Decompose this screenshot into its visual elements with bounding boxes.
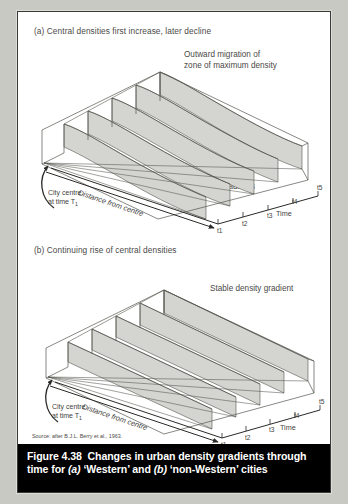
- figure-caption-bar: Figure 4.38 Changes in urban density gra…: [18, 444, 330, 492]
- panel-b-tick-label-t2: t2: [245, 434, 251, 441]
- panel-b-city-centre-sub: 1: [79, 415, 82, 421]
- panel-b-tick-label-t4: t4: [294, 412, 300, 419]
- panel-a-block: [42, 72, 318, 228]
- panel-a-city-centre-line2: at time T1: [48, 197, 81, 209]
- panel-a-tick-label-t3: t3: [267, 212, 273, 219]
- panel-b-right-lower: [308, 381, 314, 393]
- panel-a-city-centre-label: City centre at time T1: [48, 188, 81, 209]
- panel-a-tick-label-t2: t2: [242, 220, 248, 227]
- figure-panel: (a) Central densities first increase, la…: [17, 11, 331, 493]
- page-background: (a) Central densities first increase, la…: [0, 0, 348, 504]
- panel-b-city-centre-line2: at time T1: [52, 411, 85, 423]
- caption-label-a: (a): [68, 463, 81, 475]
- panel-b-left-base: [46, 367, 68, 378]
- panel-b-block: [46, 290, 320, 442]
- figure-caption: Figure 4.38 Changes in urban density gra…: [27, 450, 321, 475]
- panel-a-tick-label-t4: t4: [292, 198, 298, 205]
- panel-a-right-lower: [302, 169, 308, 180]
- panel-b-time-axis-label: Time: [280, 423, 296, 432]
- figure-number: Figure 4.38: [27, 450, 82, 462]
- panel-a-right-upper: [302, 143, 308, 146]
- panel-a-city-centre-line2-text: at time T: [48, 198, 75, 205]
- panel-a-left-base: [42, 153, 64, 164]
- panel-b-tick-label-t5: t5: [319, 398, 325, 405]
- panel-b-tick-label-t3: t3: [269, 426, 275, 433]
- panel-b-time-ticks: [222, 405, 320, 438]
- diagram-area: (a) Central densities first increase, la…: [18, 12, 330, 450]
- caption-label-b: (b): [154, 463, 167, 475]
- density-gradient-diagram: [18, 12, 330, 450]
- panel-a-time-axis-label: Time: [276, 209, 292, 218]
- caption-mid1: ‘Western’ and: [81, 463, 154, 475]
- panel-a-tick-label-t5: t5: [317, 184, 323, 191]
- panel-a-time-ticks: [218, 191, 318, 224]
- source-note: Source: after B.J.L. Berry et al., 1963.: [32, 433, 122, 439]
- panel-a-tick-label-t1: t1: [217, 227, 223, 234]
- panel-b-city-centre-line2-text: at time T: [52, 412, 79, 419]
- caption-mid2: ‘non-Western’ cities: [167, 463, 268, 475]
- panel-b-city-centre-label: City centre at time T1: [52, 402, 85, 423]
- panel-a-city-centre-sub: 1: [75, 201, 78, 207]
